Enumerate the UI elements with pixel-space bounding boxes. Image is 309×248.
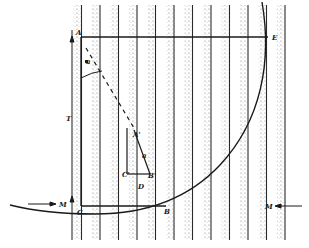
arrow-m-left <box>28 202 56 206</box>
stipple-band <box>185 5 192 240</box>
arrow-m-right <box>275 204 302 208</box>
label-T: T <box>66 115 71 122</box>
label-B-prime: B' <box>148 172 156 179</box>
label-A: A <box>76 29 81 36</box>
stipple-band <box>92 5 99 240</box>
stipple-band <box>240 5 247 240</box>
label-small-a: a <box>86 58 91 65</box>
vertical-axis-arrow <box>70 30 74 240</box>
label-A-prime: A' <box>133 131 141 138</box>
label-M-left: M <box>59 201 67 208</box>
label-B: B <box>164 208 170 215</box>
label-M-right: M <box>265 203 273 210</box>
stipple-band <box>222 5 229 240</box>
diagram-canvas <box>0 0 309 248</box>
stipple-band <box>166 5 173 240</box>
label-E: E <box>272 34 277 41</box>
stipple-band <box>111 5 118 240</box>
stipple-band <box>203 5 210 240</box>
label-C: C <box>77 209 83 216</box>
stipple-band <box>148 5 155 240</box>
label-C-prime: C' <box>122 171 130 178</box>
stippled-bands <box>74 5 286 240</box>
label-a: a <box>142 152 147 159</box>
stipple-band <box>129 5 136 240</box>
stipple-band <box>74 5 81 240</box>
label-D: D <box>138 183 144 190</box>
